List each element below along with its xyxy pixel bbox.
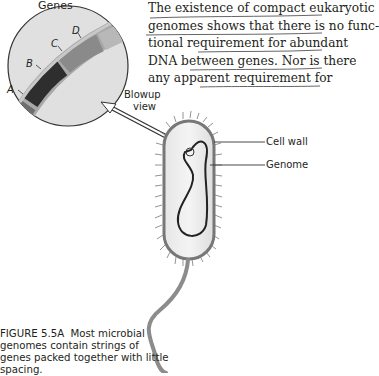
body-line: DNA between genes. Nor is there	[148, 53, 324, 71]
body-line: tional requirement for abundant	[148, 35, 324, 53]
cell-wall-label: Cell wall	[266, 136, 308, 147]
genome-label: Genome	[266, 159, 308, 170]
gene-d-label: D	[72, 25, 80, 36]
gene-b-label: B	[26, 58, 33, 69]
gene-a-label: A	[7, 84, 14, 95]
figure-caption: FIGURE 5.5A Most microbial genomes conta…	[0, 328, 170, 376]
gene-a-segment	[5, 105, 28, 150]
blowup-circle	[0, 6, 140, 150]
body-line: The existence of compact eukaryotic	[148, 0, 324, 18]
view-label: view	[133, 101, 156, 112]
figure-id: FIGURE 5.5A	[0, 328, 64, 339]
body-paragraph: The existence of compact eukaryotic geno…	[148, 0, 324, 88]
blowup-label: Blowup	[124, 89, 161, 100]
body-line: genomes shows that there is no func-	[148, 18, 324, 36]
genes-label: Genes	[38, 0, 73, 12]
body-line: any apparent requirement for	[148, 70, 324, 88]
gene-c-label: C	[51, 38, 58, 49]
